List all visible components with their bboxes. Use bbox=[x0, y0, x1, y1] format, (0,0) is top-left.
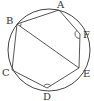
angle-mark-b bbox=[20, 23, 21, 26]
label-b: B bbox=[6, 15, 13, 26]
hexagon-afedcb bbox=[12, 10, 80, 88]
label-f: F bbox=[83, 29, 90, 40]
label-e: E bbox=[83, 68, 90, 79]
geometry-diagram: A B F E D C bbox=[0, 0, 94, 101]
label-a: A bbox=[56, 0, 65, 10]
label-d: D bbox=[43, 91, 51, 101]
label-c: C bbox=[2, 67, 10, 78]
diagonal-be bbox=[17, 24, 79, 68]
circumscribed-circle bbox=[8, 9, 90, 91]
